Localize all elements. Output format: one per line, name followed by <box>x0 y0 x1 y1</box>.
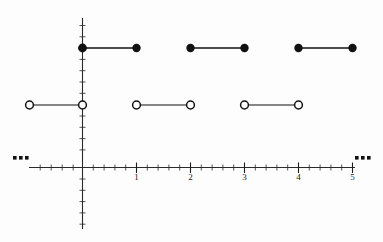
filled-point-x0 <box>78 44 87 53</box>
open-point-x4 <box>295 101 303 109</box>
right-ellipsis-icon <box>355 156 371 160</box>
left-ellipsis-icon <box>13 156 29 160</box>
open-point-x1 <box>133 101 141 109</box>
open-point-x2 <box>187 101 195 109</box>
x-axis-tick-labels: 1 2 3 4 5 <box>134 172 355 182</box>
open-point-xneg1 <box>26 101 34 109</box>
series-upper-level-segments <box>78 44 357 53</box>
filled-point-x4 <box>294 44 302 52</box>
x-tick-label-4: 4 <box>296 172 301 182</box>
filled-point-x5 <box>348 44 356 52</box>
series-lower-level-segments <box>26 101 303 109</box>
x-tick-label-2: 2 <box>188 172 193 182</box>
x-tick-label-3: 3 <box>242 172 247 182</box>
x-tick-label-5: 5 <box>350 172 355 182</box>
filled-point-x2 <box>186 44 194 52</box>
figure-root: 1 2 3 4 5 <box>0 0 383 242</box>
filled-point-x1 <box>132 44 140 52</box>
step-function-graph: 1 2 3 4 5 <box>0 0 383 242</box>
open-point-x3 <box>241 101 249 109</box>
open-point-x0 <box>79 101 87 109</box>
filled-point-x3 <box>240 44 248 52</box>
x-tick-label-1: 1 <box>134 172 139 182</box>
